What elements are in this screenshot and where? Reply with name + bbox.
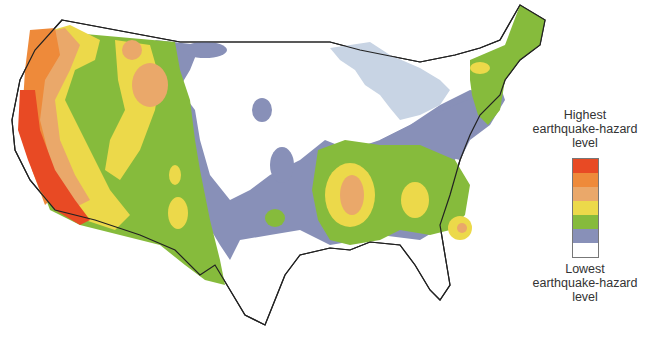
legend-lowest-line2: earthquake-hazard (530, 276, 640, 290)
zone-level-4-maine (470, 62, 490, 74)
legend-highest-line3: level (530, 136, 640, 150)
zone-level-5-new-madrid (340, 175, 364, 215)
legend-band-level-1 (573, 243, 598, 257)
zone-level-5-yellowstone (132, 63, 168, 107)
legend-lowest-line1: Lowest (530, 262, 640, 276)
legend-lowest-label: Lowest earthquake-hazard level (530, 262, 640, 304)
legend-band-level-7 (573, 159, 598, 173)
legend-band-level-3 (573, 215, 598, 229)
legend-color-scale (572, 158, 599, 258)
zone-level-5-mt (122, 40, 142, 60)
zone-level-2-ne-blob (270, 147, 294, 183)
zone-level-3-oklahoma-blob (265, 209, 285, 227)
legend-highest-line1: Highest (530, 108, 640, 122)
zone-level-4-colorado (168, 197, 188, 229)
zone-level-5-charleston (457, 223, 467, 233)
legend-band-level-4 (573, 201, 598, 215)
legend-highest-label: Highest earthquake-hazard level (530, 108, 640, 150)
legend-band-level-5 (573, 187, 598, 201)
legend-band-level-2 (573, 229, 598, 243)
legend-lowest-line3: level (530, 290, 640, 304)
legend-band-level-6 (573, 173, 598, 187)
zone-level-2-nd-blob (183, 42, 227, 58)
zone-level-2-sd-blob (252, 98, 272, 122)
zone-level-4-new-mexico (169, 165, 181, 185)
zone-level-4-tennessee (401, 182, 429, 218)
legend-highest-line2: earthquake-hazard (530, 122, 640, 136)
